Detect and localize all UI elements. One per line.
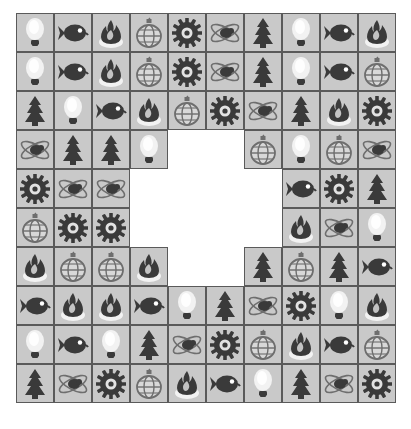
board-tile[interactable] xyxy=(206,286,244,325)
board-tile[interactable] xyxy=(16,208,54,247)
board-tile[interactable] xyxy=(282,286,320,325)
board-tile[interactable] xyxy=(244,52,282,91)
board-tile[interactable] xyxy=(244,286,282,325)
board-tile[interactable] xyxy=(358,325,396,364)
board-tile[interactable] xyxy=(358,247,396,286)
board-tile[interactable] xyxy=(16,247,54,286)
board-tile[interactable] xyxy=(244,130,282,169)
board-tile[interactable] xyxy=(320,286,358,325)
board-tile[interactable] xyxy=(92,286,130,325)
gear-icon xyxy=(324,174,354,204)
board-tile[interactable] xyxy=(16,52,54,91)
board-tile[interactable] xyxy=(54,130,92,169)
board-tile[interactable] xyxy=(206,52,244,91)
board-tile[interactable] xyxy=(244,364,282,403)
board-tile[interactable] xyxy=(320,91,358,130)
board-tile[interactable] xyxy=(92,52,130,91)
board-tile[interactable] xyxy=(130,364,168,403)
empty-cell xyxy=(168,169,206,208)
board-tile[interactable] xyxy=(54,13,92,52)
board-tile[interactable] xyxy=(168,286,206,325)
bee-icon xyxy=(323,214,355,242)
board-tile[interactable] xyxy=(92,169,130,208)
board-tile[interactable] xyxy=(320,52,358,91)
board-tile[interactable] xyxy=(358,13,396,52)
board-tile[interactable] xyxy=(16,364,54,403)
bee-icon xyxy=(171,331,203,359)
board-tile[interactable] xyxy=(16,169,54,208)
board-tile[interactable] xyxy=(244,247,282,286)
board-tile[interactable] xyxy=(16,13,54,52)
board-tile[interactable] xyxy=(54,286,92,325)
board-tile[interactable] xyxy=(320,13,358,52)
board-tile[interactable] xyxy=(16,325,54,364)
board-tile[interactable] xyxy=(282,52,320,91)
board-tile[interactable] xyxy=(16,286,54,325)
board-tile[interactable] xyxy=(168,364,206,403)
board-tile[interactable] xyxy=(244,91,282,130)
board-tile[interactable] xyxy=(130,247,168,286)
board-tile[interactable] xyxy=(130,52,168,91)
fish-icon xyxy=(57,333,89,357)
board-tile[interactable] xyxy=(92,91,130,130)
board-tile[interactable] xyxy=(206,364,244,403)
board-tile[interactable] xyxy=(282,130,320,169)
tree-icon xyxy=(21,95,49,127)
board-tile[interactable] xyxy=(320,169,358,208)
board-tile[interactable] xyxy=(282,247,320,286)
board-tile[interactable] xyxy=(130,13,168,52)
board-tile[interactable] xyxy=(92,208,130,247)
board-tile[interactable] xyxy=(54,52,92,91)
board-tile[interactable] xyxy=(92,130,130,169)
tree-icon xyxy=(97,134,125,166)
board-tile[interactable] xyxy=(168,325,206,364)
board-tile[interactable] xyxy=(92,247,130,286)
board-tile[interactable] xyxy=(54,91,92,130)
board-tile[interactable] xyxy=(358,52,396,91)
board-tile[interactable] xyxy=(54,325,92,364)
board-tile[interactable] xyxy=(168,52,206,91)
board-tile[interactable] xyxy=(54,247,92,286)
board-tile[interactable] xyxy=(16,130,54,169)
board-tile[interactable] xyxy=(168,13,206,52)
board-tile[interactable] xyxy=(282,91,320,130)
board-tile[interactable] xyxy=(358,286,396,325)
board-tile[interactable] xyxy=(282,169,320,208)
board-tile[interactable] xyxy=(358,364,396,403)
board-tile[interactable] xyxy=(16,91,54,130)
board-tile[interactable] xyxy=(92,325,130,364)
board-tile[interactable] xyxy=(92,13,130,52)
ornament-icon xyxy=(248,134,278,166)
board-tile[interactable] xyxy=(54,364,92,403)
board-tile[interactable] xyxy=(54,169,92,208)
board-tile[interactable] xyxy=(358,91,396,130)
board-tile[interactable] xyxy=(206,13,244,52)
board-tile[interactable] xyxy=(130,286,168,325)
board-tile[interactable] xyxy=(130,130,168,169)
board-tile[interactable] xyxy=(320,247,358,286)
lightbulb-icon xyxy=(286,56,316,88)
board-tile[interactable] xyxy=(92,364,130,403)
board-tile[interactable] xyxy=(244,325,282,364)
board-tile[interactable] xyxy=(168,91,206,130)
board-tile[interactable] xyxy=(320,325,358,364)
board-tile[interactable] xyxy=(206,91,244,130)
board-tile[interactable] xyxy=(282,325,320,364)
board-tile[interactable] xyxy=(282,364,320,403)
board-tile[interactable] xyxy=(130,325,168,364)
board-tile[interactable] xyxy=(206,325,244,364)
game-board[interactable] xyxy=(16,13,396,408)
fish-icon xyxy=(95,99,127,123)
board-tile[interactable] xyxy=(320,208,358,247)
board-tile[interactable] xyxy=(320,364,358,403)
board-tile[interactable] xyxy=(358,169,396,208)
board-tile[interactable] xyxy=(358,130,396,169)
board-tile[interactable] xyxy=(244,13,282,52)
board-tile[interactable] xyxy=(358,208,396,247)
board-tile[interactable] xyxy=(320,130,358,169)
board-tile[interactable] xyxy=(282,13,320,52)
board-tile[interactable] xyxy=(282,208,320,247)
tree-icon xyxy=(287,95,315,127)
board-tile[interactable] xyxy=(54,208,92,247)
board-tile[interactable] xyxy=(130,91,168,130)
